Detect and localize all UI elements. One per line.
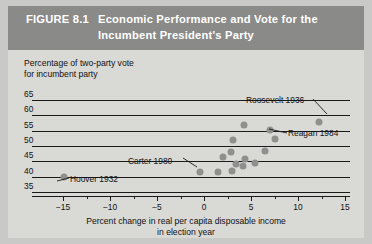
y-tick-label-55: 55 [24, 121, 40, 130]
y-tick-label-35: 35 [24, 182, 40, 191]
x-tick-label--10: −10 [103, 202, 117, 212]
x-tick--10 [110, 196, 111, 201]
x-tick-label-5: 5 [249, 202, 254, 212]
annotation-hoover-1932-leader-line [56, 177, 70, 182]
gridline-y-50 [32, 146, 350, 147]
annotation-carter-1980: Carter 1980 [128, 156, 172, 166]
annotation-hoover-1932: Hoover 1932 [70, 174, 118, 184]
plot-area: 65605550454035−15−10−5051015Roosevelt 19… [8, 6, 364, 238]
data-point [239, 162, 246, 169]
x-tick-minor [87, 196, 88, 199]
annotation-reagan-1984-leader-line [268, 128, 288, 134]
data-point [251, 159, 258, 166]
data-point-roosevelt-1936 [315, 119, 322, 126]
x-tick-minor [181, 196, 182, 199]
data-point [228, 148, 235, 155]
data-point-carter-1980 [197, 169, 204, 176]
x-tick-label-0: 0 [202, 202, 207, 212]
x-tick-minor [134, 196, 135, 199]
figure-container: FIGURE 8.1Economic Performance and Vote … [8, 6, 364, 238]
annotation-roosevelt-1936: Roosevelt 1936 [246, 95, 304, 105]
x-axis-label-line-2: in election year [8, 227, 364, 238]
x-tick-minor [322, 196, 323, 199]
x-tick-label-10: 10 [293, 202, 302, 212]
y-tick-label-40: 40 [24, 167, 40, 176]
y-tick-label-65: 65 [24, 90, 40, 99]
x-tick--5 [157, 196, 158, 201]
gridline-y-60 [32, 115, 350, 116]
data-point [229, 167, 236, 174]
x-tick--15 [63, 196, 64, 201]
data-point [219, 154, 226, 161]
annotation-carter-1980-leader-line [182, 157, 198, 168]
data-point [230, 136, 237, 143]
x-axis-label-line-1: Percent change in real per capita dispos… [8, 216, 364, 227]
data-point [262, 148, 269, 155]
x-tick-10 [298, 196, 299, 201]
annotation-roosevelt-1936-leader-line [312, 98, 328, 115]
data-point [215, 168, 222, 175]
x-axis-line [32, 196, 350, 197]
x-tick-0 [204, 196, 205, 201]
gridline-y-35 [32, 192, 350, 193]
x-tick-15 [345, 196, 346, 201]
annotation-reagan-1984: Reagan 1984 [288, 128, 338, 138]
data-point [242, 155, 249, 162]
x-tick-5 [251, 196, 252, 201]
x-tick-label--5: −5 [152, 202, 162, 212]
x-tick-minor [275, 196, 276, 199]
y-tick-label-60: 60 [24, 105, 40, 114]
x-tick-minor [228, 196, 229, 199]
x-tick-label-15: 15 [340, 202, 349, 212]
data-point-reagan-1984 [271, 135, 278, 142]
data-point [241, 121, 248, 128]
y-tick-label-50: 50 [24, 136, 40, 145]
x-tick-label--15: −15 [56, 202, 70, 212]
y-tick-label-45: 45 [24, 151, 40, 160]
x-axis-label: Percent change in real per capita dispos… [8, 216, 364, 237]
